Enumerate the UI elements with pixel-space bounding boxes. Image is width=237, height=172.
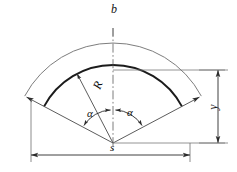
right-radial-boundary-line <box>113 97 200 143</box>
drawing-svg <box>0 0 237 172</box>
left-radial-boundary-line <box>27 97 114 143</box>
technical-drawing-canvas: b R α α s y <box>0 0 237 172</box>
label-height-y: y <box>207 104 219 109</box>
label-angle-alpha-left: α <box>87 108 93 119</box>
label-angle-alpha-right: α <box>127 107 133 118</box>
label-span-s: s <box>110 142 114 153</box>
label-outer-arc-b: b <box>111 3 117 15</box>
